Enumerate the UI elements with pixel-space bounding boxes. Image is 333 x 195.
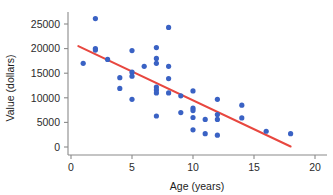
- trendline-segment: [78, 46, 290, 146]
- y-axis-title: Value (dollars): [4, 55, 16, 122]
- x-tick-label: 15: [248, 161, 260, 173]
- scatter-plot-figure: 05101520 0500010000150002000025000 Age (…: [0, 0, 333, 195]
- data-point: [117, 86, 122, 91]
- data-point: [166, 64, 171, 69]
- plot-canvas: 05101520 0500010000150002000025000 Age (…: [0, 0, 333, 195]
- x-axis-title: Age (years): [170, 180, 224, 192]
- data-point: [154, 61, 159, 66]
- y-tick-label: 5000: [37, 116, 61, 128]
- data-point: [81, 61, 86, 66]
- data-point: [93, 16, 98, 21]
- data-point: [178, 93, 183, 98]
- data-point: [166, 76, 171, 81]
- data-point: [215, 97, 220, 102]
- x-tick-label: 20: [309, 161, 321, 173]
- data-point: [166, 25, 171, 30]
- data-point: [166, 90, 171, 95]
- data-point: [129, 74, 134, 79]
- y-tick-label: 25000: [31, 18, 60, 30]
- data-point: [93, 47, 98, 52]
- x-tick-label: 5: [129, 161, 135, 173]
- y-axis: 0500010000150002000025000: [31, 12, 68, 155]
- data-point: [190, 127, 195, 132]
- data-point: [288, 131, 293, 136]
- data-point: [264, 129, 269, 134]
- data-point: [117, 75, 122, 80]
- data-point: [154, 113, 159, 118]
- data-point: [129, 48, 134, 53]
- data-point: [203, 117, 208, 122]
- data-point: [154, 45, 159, 50]
- data-point: [215, 133, 220, 138]
- data-point: [129, 97, 134, 102]
- data-point: [239, 103, 244, 108]
- data-points-group: [81, 16, 294, 138]
- y-tick-label: 0: [54, 141, 60, 153]
- data-point: [190, 115, 195, 120]
- x-tick-label: 0: [68, 161, 74, 173]
- data-point: [239, 115, 244, 120]
- data-point: [105, 57, 110, 62]
- data-point: [215, 112, 220, 117]
- y-tick-label: 20000: [31, 42, 60, 54]
- x-axis: 05101520: [68, 155, 327, 173]
- data-point: [142, 64, 147, 69]
- data-point: [154, 56, 159, 61]
- y-tick-label: 10000: [31, 92, 60, 104]
- data-point: [215, 117, 220, 122]
- data-point: [203, 131, 208, 136]
- data-point: [154, 90, 159, 95]
- data-point: [190, 108, 195, 113]
- trendline: [78, 46, 290, 146]
- data-point: [178, 110, 183, 115]
- x-tick-label: 10: [187, 161, 199, 173]
- data-point: [190, 88, 195, 93]
- y-tick-label: 15000: [31, 67, 60, 79]
